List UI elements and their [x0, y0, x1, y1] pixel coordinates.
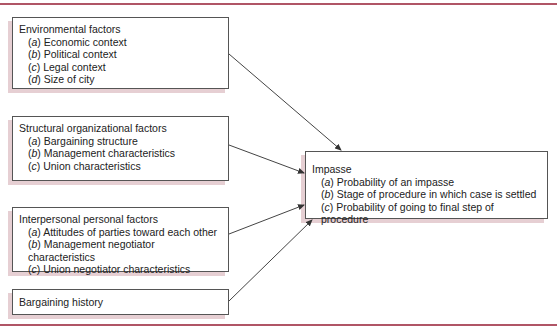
arrows-layer	[0, 0, 557, 328]
arrow-environmental-to-impasse	[229, 54, 341, 150]
arrow-history-to-impasse	[229, 220, 312, 301]
arrow-interpersonal-to-impasse	[229, 205, 304, 234]
bottom-rule	[0, 324, 557, 326]
arrow-structural-to-impasse	[229, 145, 304, 173]
